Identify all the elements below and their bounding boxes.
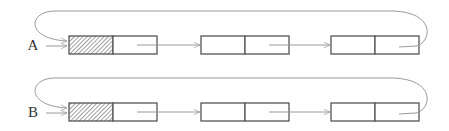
data-cell [201,36,245,54]
list-label: B [28,104,38,120]
data-cell [331,103,375,121]
head-data-cell [69,36,113,54]
next-pointer-cell [375,36,419,54]
list-b: B [28,78,427,121]
head-data-cell [69,103,113,121]
data-cell [201,103,245,121]
linked-list-diagram: AB [0,0,449,131]
list-node [331,36,419,54]
list-label: A [28,37,39,53]
list-a: A [28,11,428,54]
data-cell [331,36,375,54]
list-node [331,103,419,121]
next-pointer-cell [375,103,419,121]
